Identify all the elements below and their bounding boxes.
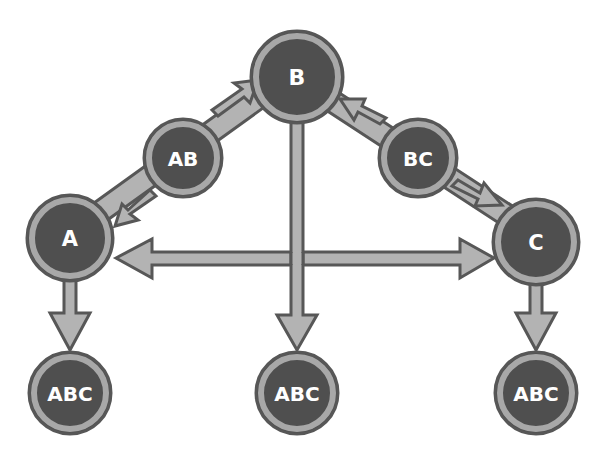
arrow-c-to-abc-right <box>516 282 556 350</box>
node-a-label: A <box>62 227 79 251</box>
node-ab-label: AB <box>168 147 199 171</box>
node-abc-left-label: ABC <box>47 382 92 406</box>
node-c: C <box>493 199 579 285</box>
node-ab: AB <box>144 119 222 197</box>
arrow-a-to-abc-left <box>50 278 90 350</box>
node-b-label: B <box>289 65 306 90</box>
node-bc: BC <box>379 119 457 197</box>
node-abc-right: ABC <box>495 352 577 434</box>
node-b: B <box>251 31 343 123</box>
state-diagram: .shaft { fill: #b3b3b3; stroke: #575757;… <box>0 0 609 464</box>
node-abc-left: ABC <box>29 352 111 434</box>
arrow-a-c-bidirectional <box>116 239 494 278</box>
node-abc-middle-label: ABC <box>274 382 319 406</box>
node-abc-right-label: ABC <box>513 382 558 406</box>
node-abc-middle: ABC <box>256 352 338 434</box>
node-bc-label: BC <box>403 147 433 171</box>
node-c-label: C <box>528 231 543 255</box>
arrow-b-to-abc-middle <box>277 118 317 350</box>
node-a: A <box>27 195 113 281</box>
